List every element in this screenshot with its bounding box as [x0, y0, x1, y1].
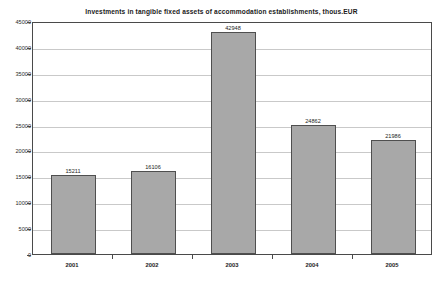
- y-tick-mark: [27, 151, 31, 152]
- bar-value-label: 24862: [305, 118, 321, 124]
- x-tick-mark: [272, 255, 273, 259]
- x-tick-mark: [352, 255, 353, 259]
- y-tick-mark: [27, 255, 31, 256]
- x-tick-label: 2001: [66, 262, 79, 268]
- x-tick-mark: [192, 255, 193, 259]
- x-tick-mark: [112, 255, 113, 259]
- bar-value-label: 16106: [145, 164, 161, 170]
- bar-value-label: 42948: [225, 25, 241, 31]
- x-tick-label: 2005: [386, 262, 399, 268]
- x-tick-label: 2002: [146, 262, 159, 268]
- y-tick-mark: [27, 229, 31, 230]
- y-axis: 0500010000150002000025000300003500040000…: [0, 22, 31, 255]
- y-tick-mark: [27, 177, 31, 178]
- chart-title: Investments in tangible fixed assets of …: [0, 8, 443, 15]
- bar-value-label: 15211: [65, 168, 80, 174]
- y-tick-mark: [27, 203, 31, 204]
- bar-chart: Investments in tangible fixed assets of …: [0, 0, 443, 283]
- bar: [51, 175, 96, 254]
- y-tick-mark: [27, 100, 31, 101]
- bar: [131, 171, 176, 254]
- x-tick-label: 2004: [306, 262, 319, 268]
- bar: [211, 32, 256, 254]
- y-tick-mark: [27, 126, 31, 127]
- x-tick-label: 2003: [226, 262, 239, 268]
- plot-area: 1521116106429482486221986: [32, 22, 432, 255]
- bar: [371, 140, 416, 254]
- x-axis: 20012002200320042005: [32, 255, 432, 279]
- y-tick-mark: [27, 74, 31, 75]
- y-tick-mark: [27, 48, 31, 49]
- plot-inner: 1521116106429482486221986: [33, 23, 431, 254]
- bar-value-label: 21986: [385, 133, 401, 139]
- bar: [291, 125, 336, 254]
- y-tick-mark: [27, 22, 31, 23]
